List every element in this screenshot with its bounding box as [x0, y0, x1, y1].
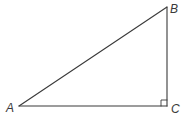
- vertex-label-b: B: [170, 2, 178, 16]
- side-ab: [19, 7, 167, 106]
- vertex-label-c: C: [171, 102, 180, 116]
- right-angle-marker: [161, 100, 167, 106]
- right-triangle-diagram: A B C: [0, 0, 182, 119]
- vertex-label-a: A: [5, 101, 14, 115]
